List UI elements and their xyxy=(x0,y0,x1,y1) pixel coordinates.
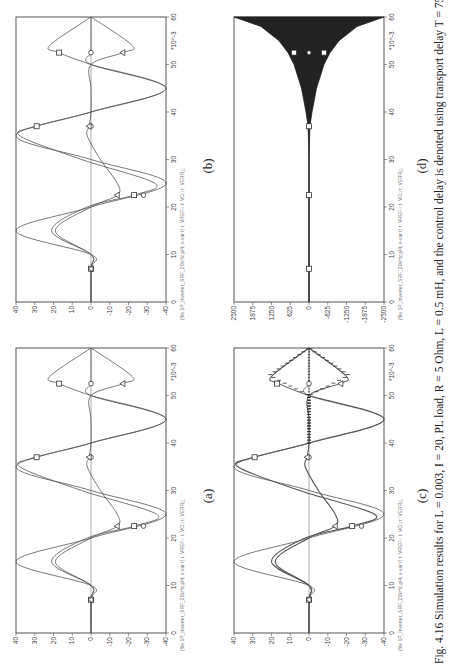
y-tick-label: -10 xyxy=(106,306,113,316)
triangle-marker xyxy=(120,50,125,56)
y-tick-label: 10 xyxy=(68,306,75,314)
y-tick-label: 10 xyxy=(68,637,75,645)
x-tick-label: 20 xyxy=(170,203,177,211)
x-tick-label: 40 xyxy=(170,439,177,447)
panel-a: 403020100-10-20-30-400102030405060*10^-3… xyxy=(10,340,185,655)
y-tick-label: 625 xyxy=(286,306,293,317)
x-tick-label: 60 xyxy=(388,13,395,21)
x-multiplier: *10^-3 xyxy=(388,31,395,50)
y-tick-label: -20 xyxy=(343,637,350,647)
circle-marker xyxy=(89,50,94,55)
y-tick-label: 1250 xyxy=(268,306,275,321)
square-marker xyxy=(132,193,137,198)
y-tick-label: -1250 xyxy=(343,306,350,323)
x-multiplier: *10^-3 xyxy=(170,31,177,50)
square-marker xyxy=(57,381,62,386)
y-tick-label: 0 xyxy=(305,306,312,310)
rotated-page: 403020100-10-20-30-400102030405060*10^-3… xyxy=(0,0,451,664)
circle-marker xyxy=(141,524,146,529)
y-tick-label: -40 xyxy=(162,306,169,316)
figure-caption: Fig. 4.16 Simulation results for L = 0.0… xyxy=(433,0,445,664)
triangle-marker xyxy=(114,523,119,529)
panel-label-d: (d) xyxy=(414,146,430,186)
x-tick-label: 30 xyxy=(170,487,177,495)
y-tick-label: 1875 xyxy=(249,306,256,321)
square-marker xyxy=(275,381,280,386)
y-tick-label: 0 xyxy=(87,637,94,641)
panel-label-a: (a) xyxy=(200,476,216,516)
square-marker xyxy=(57,50,62,55)
square-marker xyxy=(252,455,257,460)
legend: (file 1P_Inverter_SRF_20kHz.pl4; x-var t… xyxy=(179,168,185,320)
x-tick-label: 0 xyxy=(170,300,177,304)
square-marker xyxy=(307,266,312,271)
y-tick-label: 2500 xyxy=(230,306,237,321)
y-tick-label: -30 xyxy=(143,306,150,316)
x-multiplier: *10^-3 xyxy=(170,362,177,381)
y-tick-label: 20 xyxy=(268,637,275,645)
panel-d: 2500187512506250-625-1250-1875-250001020… xyxy=(228,9,403,324)
x-tick-label: 50 xyxy=(170,392,177,400)
x-tick-label: 60 xyxy=(170,344,177,352)
x-tick-label: 0 xyxy=(388,300,395,304)
y-tick-label: -2500 xyxy=(380,306,387,323)
x-tick-label: 40 xyxy=(388,439,395,447)
square-marker xyxy=(307,193,312,198)
circle-marker xyxy=(307,381,312,386)
x-tick-label: 30 xyxy=(170,156,177,164)
y-tick-label: -40 xyxy=(162,637,169,647)
y-tick-label: -20 xyxy=(125,306,132,316)
x-tick-label: 50 xyxy=(388,392,395,400)
y-tick-label: 20 xyxy=(50,637,57,645)
x-tick-label: 60 xyxy=(170,13,177,21)
panel-b: 403020100-10-20-30-400102030405060*10^-3… xyxy=(10,9,185,324)
triangle-marker xyxy=(338,381,343,387)
x-tick-label: 20 xyxy=(170,534,177,542)
legend: (file 1P_Inverter_SRF_20kHz.pl4; x-var t… xyxy=(397,499,403,651)
y-tick-label: 20 xyxy=(50,306,57,314)
y-tick-label: -1875 xyxy=(361,306,368,323)
y-tick-label: 10 xyxy=(286,637,293,645)
x-tick-label: 60 xyxy=(388,344,395,352)
x-tick-label: 0 xyxy=(170,631,177,635)
x-tick-label: 40 xyxy=(170,108,177,116)
triangle-marker xyxy=(114,192,119,198)
panel-c: 403020100-10-20-30-400102030405060*10^-3… xyxy=(228,340,403,655)
triangle-marker xyxy=(120,381,125,387)
x-tick-label: 10 xyxy=(170,251,177,259)
x-tick-label: 50 xyxy=(388,61,395,69)
x-tick-label: 30 xyxy=(388,487,395,495)
x-tick-label: 40 xyxy=(388,108,395,116)
legend: (file 1P_Inverter_SRF_20kHz.pl4; x-var t… xyxy=(179,499,185,651)
series-verr xyxy=(275,348,348,633)
x-tick-label: 50 xyxy=(170,61,177,69)
y-tick-label: 40 xyxy=(12,306,19,314)
x-tick-label: 20 xyxy=(388,203,395,211)
x-tick-label: 20 xyxy=(388,534,395,542)
y-tick-label: 0 xyxy=(87,306,94,310)
x-tick-label: 0 xyxy=(388,631,395,635)
panel-label-c: (c) xyxy=(414,476,430,516)
x-multiplier: *10^-3 xyxy=(388,362,395,381)
y-tick-label: -40 xyxy=(380,637,387,647)
circle-marker xyxy=(359,524,364,529)
square-marker xyxy=(307,124,312,129)
y-tick-label: -10 xyxy=(106,637,113,647)
y-tick-label: 30 xyxy=(249,637,256,645)
chart-c: 403020100-10-20-30-400102030405060*10^-3… xyxy=(228,340,403,655)
circle-marker xyxy=(89,381,94,386)
y-tick-label: -20 xyxy=(125,637,132,647)
legend: (file 1P_Inverter_SRF_20kHz.pl4; x-var t… xyxy=(397,168,403,320)
y-tick-label: 30 xyxy=(31,306,38,314)
chart-d: 2500187512506250-625-1250-1875-250001020… xyxy=(228,9,403,324)
square-marker xyxy=(350,524,355,529)
square-marker xyxy=(34,124,39,129)
circle-marker xyxy=(141,193,146,198)
y-tick-label: 30 xyxy=(31,637,38,645)
chart-a: 403020100-10-20-30-400102030405060*10^-3… xyxy=(10,340,185,655)
y-tick-label: -10 xyxy=(324,637,331,647)
y-tick-label: -625 xyxy=(324,306,331,319)
panel-label-b: (b) xyxy=(200,146,216,186)
y-tick-label: 40 xyxy=(12,637,19,645)
series-verr xyxy=(55,17,134,302)
